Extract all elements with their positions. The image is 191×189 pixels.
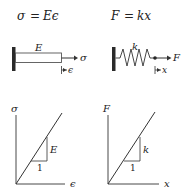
fixed-wall-right <box>112 47 116 71</box>
hookes-law-diagram: σ = Eϵ F = kx E σ ϵ k F x σ <box>0 0 191 189</box>
elastic-bar-figure: E σ ϵ <box>12 42 88 75</box>
graph-right-slope-run-label: 1 <box>130 163 136 173</box>
graph-right-y-label: F <box>102 103 111 114</box>
bar-displacement-label: ϵ <box>68 65 73 75</box>
spring-displacement-label: x <box>162 65 167 75</box>
formula-right-eq: = <box>124 9 134 23</box>
graph-left-slope-rise-label: E <box>49 144 58 155</box>
formula-right-lhs: F <box>110 9 120 23</box>
formula-stress-strain: σ = Eϵ <box>17 9 59 23</box>
extension-arrow-head-icon <box>157 68 161 72</box>
elastic-bar <box>16 53 62 63</box>
formula-left-rhs: Eϵ <box>42 9 59 23</box>
formula-right-rhs: kx <box>137 9 151 23</box>
spring-figure: k F x <box>112 41 181 75</box>
force-displacement-graph: F x k 1 <box>102 103 170 189</box>
stress-strain-graph: σ ϵ E 1 <box>11 103 76 189</box>
formula-force-spring: F = kx <box>110 9 151 23</box>
graph-left-slope-run-label: 1 <box>37 163 43 173</box>
graph-left-y-label: σ <box>11 103 19 114</box>
force-arrow-head-icon <box>74 56 78 61</box>
spring-force-label: F <box>172 52 181 63</box>
graph-right-x-label: x <box>164 178 170 189</box>
graph-left-x-label: ϵ <box>70 178 76 189</box>
bar-force-label: σ <box>80 52 88 63</box>
spring-constant-label: k <box>132 41 138 52</box>
bar-modulus-label: E <box>34 42 43 53</box>
fixed-wall-left <box>12 47 16 71</box>
spring-force-arrow-head-icon <box>167 56 172 61</box>
graph-right-slope-rise-label: k <box>143 144 149 155</box>
strain-arrow-head-icon <box>63 68 67 72</box>
formula-left-eq: = <box>30 9 40 23</box>
graph-right-slope-triangle <box>124 137 140 161</box>
formula-left-lhs: σ <box>17 9 26 23</box>
